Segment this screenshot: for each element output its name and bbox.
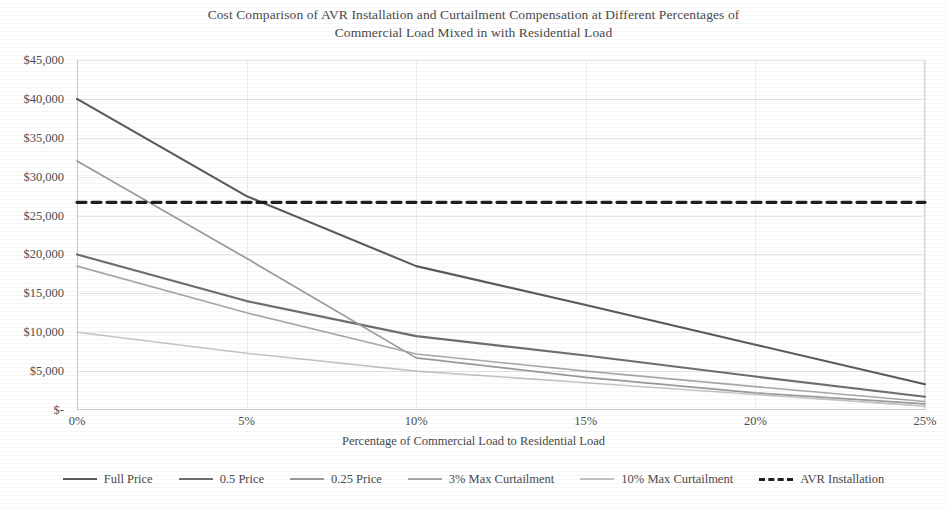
chart-container: Cost Comparison of AVR Installation and … [0, 0, 947, 508]
chart-title-line-1: Cost Comparison of AVR Installation and … [0, 6, 947, 24]
y-axis-tick-labels: $45,000$40,000$35,000$30,000$25,000$20,0… [0, 60, 70, 410]
y-tick-label: $25,000 [23, 208, 64, 223]
series-line [77, 99, 925, 384]
x-axis-title: Percentage of Commercial Load to Residen… [0, 434, 947, 449]
y-tick-label: $40,000 [23, 91, 64, 106]
legend-item[interactable]: 0.25 Price [290, 472, 382, 487]
legend-label: AVR Installation [800, 472, 884, 487]
series-line [77, 161, 925, 404]
x-tick-label: 25% [914, 414, 937, 429]
legend-label: 10% Max Curtailment [621, 472, 733, 487]
series-line [77, 254, 925, 396]
x-tick-label: 20% [744, 414, 767, 429]
y-tick-label: $10,000 [23, 325, 64, 340]
y-tick-label: $45,000 [23, 53, 64, 68]
series-lines [77, 60, 925, 410]
legend-label: Full Price [104, 472, 153, 487]
y-tick-label: $15,000 [23, 286, 64, 301]
legend-swatch-icon [408, 478, 442, 480]
y-tick-label: $5,000 [30, 364, 64, 379]
legend-label: 0.5 Price [220, 472, 264, 487]
legend-item[interactable]: Full Price [63, 472, 153, 487]
legend-swatch-icon [759, 478, 793, 481]
y-tick-label: $35,000 [23, 130, 64, 145]
chart-title: Cost Comparison of AVR Installation and … [0, 6, 947, 42]
legend-item[interactable]: 3% Max Curtailment [408, 472, 555, 487]
legend-item[interactable]: 0.5 Price [179, 472, 264, 487]
plot-area [77, 60, 925, 410]
y-tick-label: $20,000 [23, 247, 64, 262]
legend-label: 0.25 Price [331, 472, 382, 487]
chart-title-line-2: Commercial Load Mixed in with Residentia… [0, 24, 947, 42]
x-tick-label: 15% [574, 414, 597, 429]
y-tick-label: $30,000 [23, 169, 64, 184]
legend-label: 3% Max Curtailment [449, 472, 555, 487]
x-tick-label: 5% [238, 414, 255, 429]
legend-swatch-icon [290, 478, 324, 480]
x-tick-label: 10% [405, 414, 428, 429]
gridline-vertical [925, 60, 926, 410]
legend-swatch-icon [63, 478, 97, 480]
x-axis-tick-labels: 0%5%10%15%20%25% [77, 414, 925, 434]
legend-item[interactable]: AVR Installation [759, 472, 884, 487]
chart-legend: Full Price0.5 Price0.25 Price3% Max Curt… [0, 466, 947, 492]
legend-item[interactable]: 10% Max Curtailment [580, 472, 733, 487]
y-tick-label: $- [54, 403, 64, 418]
x-tick-label: 0% [69, 414, 86, 429]
legend-swatch-icon [179, 478, 213, 480]
legend-swatch-icon [580, 478, 614, 480]
